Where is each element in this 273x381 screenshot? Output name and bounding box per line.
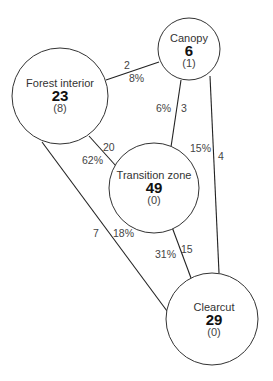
edge-transition-clearcut-percent: 31% (155, 248, 176, 260)
node-canopy: Canopy 6 (1) (158, 18, 220, 80)
edge-forest-canopy-count: 2 (124, 59, 130, 71)
edge-canopy-clearcut-count: 4 (218, 150, 224, 162)
node-forest-interior-sub: (8) (53, 102, 66, 114)
edge-canopy-transition-percent: 6% (156, 102, 171, 114)
edge-canopy-transition (171, 80, 181, 147)
node-forest-interior: Forest interior 23 (8) (12, 48, 108, 144)
edge-canopy-clearcut (210, 76, 219, 273)
edge-forest-clearcut-count: 7 (93, 227, 99, 239)
edge-forest-transition-count: 20 (103, 141, 115, 153)
edge-canopy-transition-count: 3 (181, 102, 187, 114)
node-clearcut: Clearcut 29 (0) (166, 273, 258, 365)
edge-forest-canopy-percent: 8% (129, 72, 144, 84)
node-canopy-sub: (1) (182, 57, 195, 69)
node-clearcut-sub: (0) (207, 326, 220, 338)
edge-transition-clearcut-count: 15 (181, 243, 193, 255)
edge-forest-clearcut-percent: 18% (113, 227, 134, 239)
node-transition-zone: Transition zone 49 (0) (109, 143, 199, 233)
node-transition-zone-sub: (0) (147, 194, 160, 206)
habitat-network-diagram: 2 8% 6% 3 15% 4 20 62% 7 18% 31% 15 Cano… (0, 0, 273, 381)
edge-canopy-clearcut-percent: 15% (190, 142, 211, 154)
edge-forest-transition-percent: 62% (82, 154, 103, 166)
